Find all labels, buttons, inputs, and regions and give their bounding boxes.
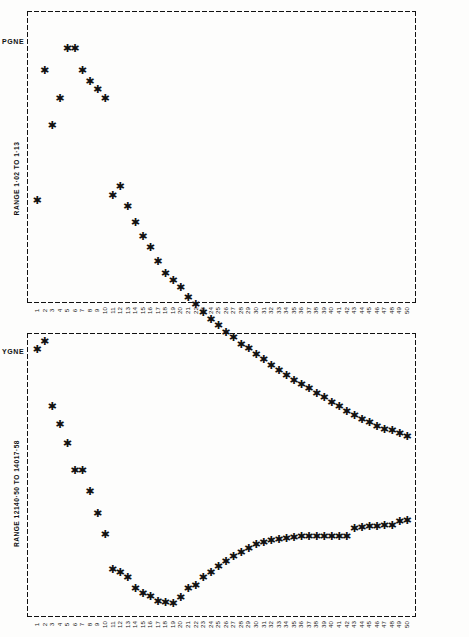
x-tick-label: 12 [116, 620, 123, 630]
x-tick-label: 7 [78, 620, 85, 630]
plot-frame-pgne [26, 10, 416, 303]
x-tick-label: 49 [395, 620, 402, 630]
x-axis-labels-ygne: 1234567891011121314151617181920212223242… [26, 619, 416, 633]
data-point [138, 236, 145, 243]
x-tick-label: 35 [289, 620, 296, 630]
frame-bottom-border [26, 615, 416, 617]
x-tick-label: 37 [304, 620, 311, 630]
plot-frame-ygne [26, 332, 416, 617]
x-tick-label: 2 [40, 620, 47, 630]
x-tick-label: 26 [221, 306, 228, 316]
x-tick-label: 20 [176, 620, 183, 630]
data-point [33, 349, 40, 356]
x-tick-label: 17 [153, 306, 160, 316]
data-point [357, 527, 364, 534]
data-point [48, 406, 55, 413]
data-point [85, 81, 92, 88]
x-tick-label: 5 [63, 306, 70, 316]
data-point [214, 566, 221, 573]
data-point [335, 536, 342, 543]
data-point [282, 538, 289, 545]
x-tick-label: 23 [199, 306, 206, 316]
x-tick-label: 14 [131, 306, 138, 316]
x-tick-label: 30 [251, 620, 258, 630]
x-tick-label: 12 [116, 306, 123, 316]
data-point [244, 548, 251, 555]
data-point [161, 602, 168, 609]
x-tick-label: 33 [274, 620, 281, 630]
x-tick-label: 38 [312, 620, 319, 630]
x-tick-label: 41 [335, 620, 342, 630]
data-point [267, 540, 274, 547]
x-tick-label: 14 [131, 620, 138, 630]
data-point [33, 200, 40, 207]
data-point [251, 544, 258, 551]
x-tick-label: 34 [282, 306, 289, 316]
x-tick-label: 39 [319, 306, 326, 316]
x-tick-label: 42 [342, 620, 349, 630]
x-tick-label: 32 [267, 620, 274, 630]
data-point [161, 273, 168, 280]
x-tick-label: 40 [327, 620, 334, 630]
data-point [297, 536, 304, 543]
x-tick-label: 39 [319, 620, 326, 630]
data-point [78, 70, 85, 77]
x-tick-label: 3 [48, 306, 55, 316]
frame-right-border [414, 10, 416, 303]
data-point [176, 287, 183, 294]
data-point [55, 98, 62, 105]
data-point [380, 525, 387, 532]
range-label-pgne: RANGE 1·02 TO 1·13 [13, 139, 20, 219]
data-point [153, 261, 160, 268]
data-point [312, 536, 319, 543]
x-tick-label: 11 [108, 306, 115, 316]
data-point [40, 341, 47, 348]
x-tick-label: 31 [259, 306, 266, 316]
data-point [365, 526, 372, 533]
data-point [85, 491, 92, 498]
frame-top-border [26, 332, 416, 334]
x-tick-label: 15 [138, 306, 145, 316]
x-tick-label: 24 [206, 306, 213, 316]
x-tick-label: 44 [357, 620, 364, 630]
x-tick-label: 50 [403, 306, 410, 316]
x-tick-label: 25 [214, 620, 221, 630]
x-tick-label: 8 [85, 620, 92, 630]
data-point [387, 525, 394, 532]
x-tick-label: 7 [78, 306, 85, 316]
x-tick-label: 33 [274, 306, 281, 316]
panel-pgne: PGNE RANGE 1·02 TO 1·13 1234567891011121… [0, 0, 420, 320]
frame-top-border [26, 10, 416, 12]
series-name-pgne: PGNE [2, 38, 24, 45]
x-tick-label: 46 [372, 306, 379, 316]
x-tick-label: 43 [350, 620, 357, 630]
frame-right-border [414, 332, 416, 617]
data-point [138, 593, 145, 600]
x-tick-label: 11 [108, 620, 115, 630]
x-tick-label: 48 [387, 306, 394, 316]
x-tick-label: 18 [161, 620, 168, 630]
x-tick-label: 1 [33, 306, 40, 316]
data-point [176, 597, 183, 604]
x-tick-label: 26 [221, 620, 228, 630]
range-label-ygne: RANGE 12140·50 TO 14017·58 [13, 438, 20, 550]
x-tick-label: 32 [267, 306, 274, 316]
x-tick-label: 48 [387, 620, 394, 630]
x-tick-label: 13 [123, 620, 130, 630]
x-tick-label: 21 [184, 306, 191, 316]
x-tick-label: 37 [304, 306, 311, 316]
x-tick-label: 9 [93, 306, 100, 316]
data-point [146, 596, 153, 603]
x-tick-label: 36 [297, 620, 304, 630]
x-tick-label: 40 [327, 306, 334, 316]
x-tick-label: 18 [161, 306, 168, 316]
data-point [93, 89, 100, 96]
x-tick-label: 4 [55, 620, 62, 630]
x-axis-labels-pgne: 1234567891011121314151617181920212223242… [26, 305, 416, 319]
data-point [131, 222, 138, 229]
data-point [168, 603, 175, 610]
x-tick-label: 27 [229, 306, 236, 316]
x-tick-label: 36 [297, 306, 304, 316]
x-tick-label: 20 [176, 306, 183, 316]
x-tick-label: 24 [206, 620, 213, 630]
